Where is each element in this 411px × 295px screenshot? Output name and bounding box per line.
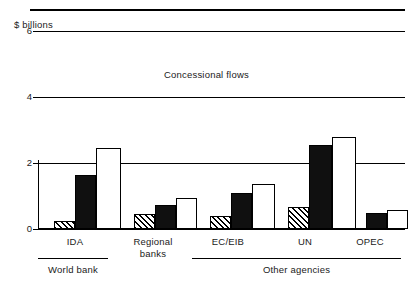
y-tick-label-4: 4 [14, 92, 32, 102]
bar-regional-banks-hatched [134, 214, 155, 229]
chart-figure: $ billions 6 4 2 0 Con [0, 0, 411, 295]
bar-opec-solid [366, 213, 387, 229]
bar-regional-banks-open [176, 198, 197, 229]
bar-ida-open [96, 148, 121, 229]
group-label-world-bank: World bank [38, 264, 108, 275]
category-label-ida: IDA [42, 236, 108, 248]
bar-ec-eib-hatched [210, 216, 231, 229]
bar-ec-eib-open [252, 184, 275, 229]
bar-un-open [332, 137, 356, 229]
group-label-other-agencies: Other agencies [192, 264, 401, 275]
bar-regional-banks-solid [155, 205, 176, 229]
group-rule-world-bank [38, 258, 108, 259]
bar-ec-eib-solid [231, 193, 252, 229]
bar-ida-hatched [54, 221, 75, 229]
gridline-6 [38, 31, 405, 32]
y-tick-label-2: 2 [14, 158, 32, 168]
category-label-ec-eib: EC/EIB [195, 236, 261, 248]
plot-area [38, 31, 405, 229]
category-label-regional-banks: Regional banks [118, 236, 188, 259]
category-label-opec: OPEC [340, 236, 400, 248]
chart-title: Concessional flows [164, 69, 249, 80]
group-rule-other-agencies [192, 258, 401, 259]
bar-ida-solid [75, 175, 96, 229]
gridline-4 [38, 97, 405, 98]
top-border-rule [30, 9, 405, 11]
y-tick-label-0: 0 [14, 224, 32, 234]
category-label-un: UN [272, 236, 338, 248]
bar-opec-open [387, 210, 408, 229]
y-tick-label-6: 6 [14, 26, 32, 36]
bar-un-solid [309, 145, 332, 229]
bar-un-hatched [288, 207, 309, 229]
